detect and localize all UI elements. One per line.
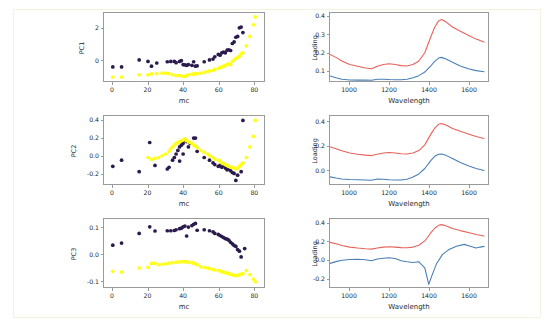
- data-point: [120, 65, 124, 69]
- data-point: [183, 224, 187, 228]
- data-point: [187, 73, 191, 77]
- y-tick-mark: [327, 53, 330, 54]
- data-point: [137, 266, 141, 270]
- x-tick-mark: [148, 185, 149, 188]
- data-point: [232, 40, 236, 44]
- x-tick-mark: [219, 185, 220, 188]
- data-point: [137, 170, 141, 174]
- panel-loading2: Loading Wavelength 0.00.20.4100012001400…: [277, 103, 554, 212]
- data-point: [185, 234, 189, 238]
- data-line: [330, 154, 484, 180]
- y-tick-label: -0.2: [77, 170, 99, 177]
- y-tick-label: 0.0: [303, 167, 325, 174]
- data-point: [120, 75, 124, 79]
- x-tick-mark: [183, 185, 184, 188]
- data-point: [239, 255, 243, 259]
- data-point: [194, 222, 198, 226]
- data-point: [190, 64, 194, 68]
- x-tick-label: 80: [240, 292, 268, 299]
- y-tick-label: 0: [77, 57, 99, 64]
- x-tick-label: 1200: [375, 189, 403, 196]
- panel-pc2-scores: PC2 mc -0.20.00.20.4020406080: [0, 103, 277, 212]
- x-tick-label: 1000: [335, 189, 363, 196]
- data-point: [239, 25, 243, 29]
- data-point: [153, 157, 157, 161]
- data-point: [253, 119, 257, 123]
- panel-pc1-scores: PC1 mc 02020406080: [0, 0, 277, 109]
- data-point: [155, 72, 159, 76]
- x-tick-label: 1600: [455, 189, 483, 196]
- x-tick-label: 1400: [415, 86, 443, 93]
- data-point: [165, 60, 169, 64]
- panel-loading1: Loading Wavelength 0.10.20.30.4100012001…: [277, 0, 554, 109]
- y-tick-label: 0.2: [77, 134, 99, 141]
- x-tick-label: 20: [134, 189, 162, 196]
- data-point: [187, 260, 191, 264]
- y-tick-mark: [327, 260, 330, 261]
- x-tick-label: 60: [205, 86, 233, 93]
- x-tick-mark: [219, 82, 220, 85]
- scatter-canvas-pc1: [104, 13, 264, 81]
- data-point: [195, 72, 199, 76]
- data-point: [146, 156, 150, 160]
- data-point: [148, 225, 152, 229]
- y-tick-label: 0.4: [303, 219, 325, 226]
- x-tick-label: 1000: [335, 292, 363, 299]
- x-tick-mark: [112, 82, 113, 85]
- data-point: [202, 150, 206, 154]
- data-point: [195, 263, 199, 267]
- data-point: [187, 63, 191, 67]
- x-tick-mark: [148, 288, 149, 291]
- y-tick-mark: [327, 121, 330, 122]
- y-tick-mark: [101, 281, 104, 282]
- y-tick-label: 0.4: [303, 118, 325, 125]
- data-point: [153, 229, 157, 233]
- x-tick-mark: [349, 82, 350, 85]
- y-tick-mark: [101, 138, 104, 139]
- y-tick-label: 0.4: [303, 12, 325, 19]
- y-tick-mark: [101, 28, 104, 29]
- data-point: [169, 229, 173, 233]
- data-point: [252, 23, 256, 27]
- x-tick-label: 80: [240, 86, 268, 93]
- y-tick-mark: [327, 241, 330, 242]
- x-tick-label: 1400: [415, 292, 443, 299]
- y-tick-mark: [101, 60, 104, 61]
- data-point: [241, 51, 245, 55]
- x-tick-mark: [469, 82, 470, 85]
- data-point: [174, 152, 178, 156]
- line-canvas-loading1: [330, 13, 488, 81]
- data-point: [150, 157, 154, 161]
- x-tick-label: 1000: [335, 86, 363, 93]
- data-point: [160, 71, 164, 75]
- figure-root: PC1 mc 02020406080 Loading Wavelength 0.…: [0, 0, 554, 327]
- y-tick-mark: [101, 156, 104, 157]
- x-tick-mark: [183, 82, 184, 85]
- data-point: [241, 31, 245, 35]
- axis-label-pc3-x: mc: [103, 303, 265, 311]
- data-point: [213, 157, 217, 161]
- y-tick-mark: [327, 146, 330, 147]
- x-tick-mark: [469, 185, 470, 188]
- data-point: [208, 267, 212, 271]
- data-point: [202, 156, 206, 160]
- x-tick-mark: [349, 288, 350, 291]
- data-point: [192, 60, 196, 64]
- x-tick-label: 1200: [375, 292, 403, 299]
- axis-label-loading3-x: Wavelength: [329, 303, 489, 311]
- data-point: [146, 73, 150, 77]
- x-tick-mark: [469, 288, 470, 291]
- x-tick-label: 80: [240, 189, 268, 196]
- data-point: [160, 262, 164, 266]
- data-point: [111, 65, 115, 69]
- plot-area-loading3: [329, 218, 489, 288]
- data-line: [330, 19, 484, 68]
- x-tick-mark: [389, 82, 390, 85]
- data-point: [229, 63, 233, 67]
- data-point: [248, 145, 252, 149]
- data-point: [241, 119, 245, 123]
- data-point: [174, 74, 178, 78]
- data-line: [330, 57, 484, 80]
- y-tick-label: 0.0: [77, 152, 99, 159]
- panel-pc3-scores: PC3 mc -0.10.00.1020406080: [0, 206, 277, 321]
